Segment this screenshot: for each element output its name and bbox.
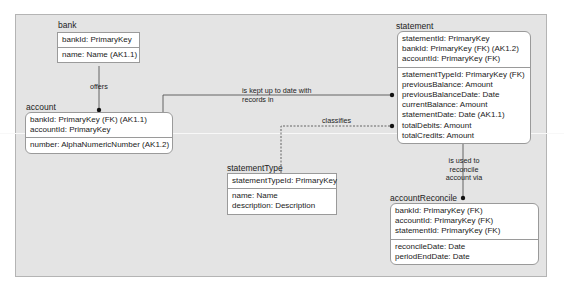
entity-label-statement-type: statementType (227, 163, 283, 173)
label-line: account via (440, 174, 488, 183)
entity-account-reconcile[interactable]: bankId: PrimaryKey (FK) accountId: Prima… (390, 203, 539, 265)
attribute-section: statementTypeId: PrimaryKey (FK) previou… (398, 67, 530, 143)
attribute: bankId: PrimaryKey (FK) (AK1.2) (402, 44, 526, 54)
attribute: statementId: PrimaryKey (FK) (395, 226, 534, 236)
key-section: bankId: PrimaryKey (FK) (AK1.1) accountI… (26, 113, 172, 137)
attribute: totalDebits: Amount (402, 121, 526, 131)
attribute: periodEndDate: Date (395, 252, 534, 262)
relationship-label-classifies: classifies (322, 117, 351, 126)
attribute: previousBalance: Amount (402, 80, 526, 90)
attribute: statementDate: Date (AK1.1) (402, 110, 526, 120)
attribute: name: Name (232, 191, 332, 201)
key-section: bankId: PrimaryKey (FK) accountId: Prima… (391, 204, 538, 239)
attribute: reconcileDate: Date (395, 242, 534, 252)
entity-account[interactable]: bankId: PrimaryKey (FK) (AK1.1) accountI… (25, 112, 173, 154)
entity-label-account: account (26, 102, 56, 112)
entity-label-account-reconcile: accountReconcile (390, 193, 457, 203)
entity-label-statement: statement (396, 21, 433, 31)
entity-bank[interactable]: bankId: PrimaryKey name: Name (AK1.1) (57, 32, 140, 63)
attribute: bankId: PrimaryKey (62, 35, 135, 45)
attribute: bankId: PrimaryKey (FK) (AK1.1) (30, 115, 168, 125)
key-section: statementId: PrimaryKey bankId: PrimaryK… (398, 32, 530, 67)
attribute: statementTypeId: PrimaryKey (232, 176, 332, 186)
attribute-section: reconcileDate: Date periodEndDate: Date (391, 239, 538, 264)
attribute-section: name: Name (AK1.1) (58, 47, 139, 62)
attribute: accountId: PrimaryKey (30, 125, 168, 135)
key-section: statementTypeId: PrimaryKey (228, 174, 336, 188)
relationship-label-kept-up-to-date: is kept up to date with records in (242, 87, 312, 104)
attribute: number: AlphaNumericNumber (AK1.2) (30, 140, 168, 150)
entity-statement[interactable]: statementId: PrimaryKey bankId: PrimaryK… (397, 31, 531, 144)
attribute-section: name: Name description: Description (228, 188, 336, 213)
attribute: statementTypeId: PrimaryKey (FK) (402, 70, 526, 80)
attribute: previousBalanceDate: Date (402, 90, 526, 100)
key-section: bankId: PrimaryKey (58, 33, 139, 47)
attribute-section: number: AlphaNumericNumber (AK1.2) (26, 137, 172, 152)
attribute: bankId: PrimaryKey (FK) (395, 206, 534, 216)
relationship-label-offers: offers (90, 83, 108, 92)
attribute: totalCredits: Amount (402, 131, 526, 141)
attribute: description: Description (232, 201, 332, 211)
attribute: accountId: PrimaryKey (FK) (402, 54, 526, 64)
attribute: currentBalance: Amount (402, 100, 526, 110)
attribute: accountId: PrimaryKey (FK) (395, 216, 534, 226)
attribute: statementId: PrimaryKey (402, 34, 526, 44)
relationship-label-reconcile: is used to reconcile account via (440, 157, 488, 183)
attribute: name: Name (AK1.1) (62, 50, 135, 60)
entity-statement-type[interactable]: statementTypeId: PrimaryKey name: Name d… (227, 173, 337, 215)
entity-label-bank: bank (58, 20, 76, 30)
label-line: records in (242, 96, 312, 105)
